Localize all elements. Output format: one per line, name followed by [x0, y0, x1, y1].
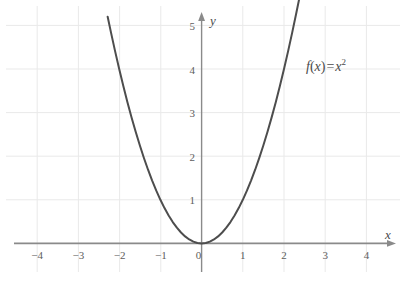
x-tick-label-4: 4 [354, 250, 378, 261]
x-axis-label: x [385, 228, 391, 241]
function-graph-figure: −4 −3 −2 −1 0 1 2 3 4 1 2 3 4 5 y x f(x)… [0, 0, 406, 285]
x-tick-label--3: −3 [66, 250, 90, 261]
x-tick-label--1: −1 [149, 250, 173, 261]
y-axis-label: y [210, 14, 216, 27]
x-tick-label-2: 2 [272, 250, 296, 261]
x-tick-label-0: 0 [187, 250, 211, 261]
function-formula-label: f(x)=x2 [306, 60, 346, 74]
x-tick-label--4: −4 [25, 250, 49, 261]
y-tick-label-5: 5 [177, 21, 195, 32]
formula-exponent: 2 [342, 57, 347, 67]
y-tick-label-3: 3 [177, 108, 195, 119]
y-tick-label-2: 2 [177, 152, 195, 163]
y-tick-label-4: 4 [177, 65, 195, 76]
y-tick-label-1: 1 [177, 195, 195, 206]
x-tick-label--2: −2 [108, 250, 132, 261]
formula-equals: = [325, 59, 335, 74]
x-tick-label-3: 3 [313, 250, 337, 261]
plot-canvas [0, 0, 406, 285]
x-tick-label-1: 1 [231, 250, 255, 261]
